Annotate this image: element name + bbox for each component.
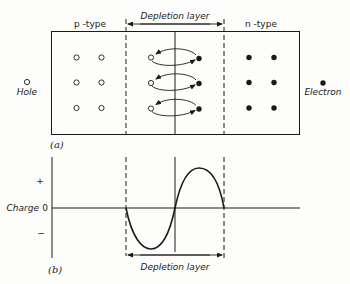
- hole-icon: [74, 55, 79, 60]
- y-axis-label: Charge: [7, 203, 40, 213]
- arrow-to-electron-icon: [152, 111, 195, 116]
- electron-icon: [196, 81, 201, 86]
- legend-electron-icon: [320, 80, 325, 85]
- caption-a: (a): [50, 139, 64, 150]
- arrow-to-hole-icon: [156, 49, 196, 55]
- arrow-to-hole-icon: [156, 74, 196, 80]
- electron-icon: [271, 105, 276, 110]
- hole-icon: [99, 105, 104, 110]
- n-type-label: n -type: [245, 19, 277, 29]
- figure-a: Depletion layer p -type n -type: [17, 11, 342, 150]
- hole-icon: [74, 80, 79, 85]
- electron-icon: [196, 56, 201, 61]
- arrow-to-hole-icon: [156, 99, 196, 105]
- hole-icon: [99, 55, 104, 60]
- hole-grid: [74, 55, 104, 111]
- electron-grid: [246, 55, 276, 111]
- legend-hole-label: Hole: [17, 87, 38, 97]
- electron-icon: [246, 80, 251, 85]
- caption-b: (b): [48, 264, 62, 275]
- p-type-label: p -type: [74, 19, 106, 29]
- hole-icon: [148, 80, 153, 85]
- legend-electron-label: Electron: [304, 87, 341, 97]
- electron-icon: [246, 105, 251, 110]
- depletion-label-a: Depletion layer: [141, 11, 211, 21]
- arrow-to-electron-icon: [152, 85, 195, 90]
- hole-icon: [74, 105, 79, 110]
- arrow-to-electron-icon: [152, 60, 195, 65]
- figure-b: + 0 Charge − Depletion layer (b): [7, 157, 300, 275]
- hole-icon: [148, 106, 153, 111]
- tick-minus: −: [37, 228, 45, 238]
- electron-icon: [271, 80, 276, 85]
- pn-junction-diagram: Depletion layer p -type n -type: [0, 0, 350, 284]
- hole-icon: [99, 80, 104, 85]
- depletion-label-b: Depletion layer: [141, 262, 211, 272]
- electron-icon: [196, 106, 201, 111]
- electron-icon: [271, 55, 276, 60]
- legend-hole-icon: [24, 79, 29, 84]
- tick-zero: 0: [42, 203, 48, 213]
- hole-icon: [148, 55, 153, 60]
- electron-icon: [246, 55, 251, 60]
- tick-plus: +: [36, 176, 44, 186]
